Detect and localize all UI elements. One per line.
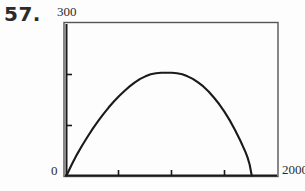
textbook-figure: 57. 300 0 2000 (0, 0, 305, 191)
data-curve (67, 73, 252, 176)
x-axis-ticks (119, 170, 225, 175)
plot-area (0, 0, 305, 191)
